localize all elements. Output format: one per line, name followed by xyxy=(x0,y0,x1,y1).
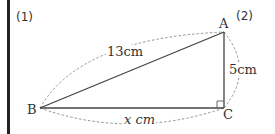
vertex-c-label: C xyxy=(223,108,233,121)
side-ac-length-label: 5cm xyxy=(229,63,257,76)
part-2-label: (2) xyxy=(236,10,253,22)
vertex-b-label: B xyxy=(27,103,37,116)
part-1-label: (1) xyxy=(16,11,33,23)
hypotenuse-length-label: 13cm xyxy=(106,45,144,58)
vertex-a-label: A xyxy=(219,17,228,30)
side-bc-length-label: x cm xyxy=(123,113,156,126)
